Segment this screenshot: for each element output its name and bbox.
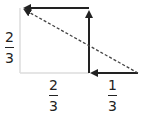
- fraction-bar: [5, 47, 14, 48]
- resultant-dashed-arrow: [25, 10, 138, 73]
- denominator: 3: [108, 99, 117, 113]
- numerator: 2: [5, 30, 14, 44]
- label-left-fraction: 2 3: [5, 30, 14, 65]
- denominator: 3: [49, 99, 58, 113]
- fraction-bar: [108, 95, 117, 96]
- label-bottom-right-fraction: 1 3: [108, 78, 117, 113]
- label-bottom-left-fraction: 2 3: [49, 78, 58, 113]
- numerator: 2: [49, 78, 58, 92]
- denominator: 3: [5, 51, 14, 65]
- fraction-bar: [49, 95, 58, 96]
- vector-diagram: [0, 0, 148, 118]
- numerator: 1: [108, 78, 117, 92]
